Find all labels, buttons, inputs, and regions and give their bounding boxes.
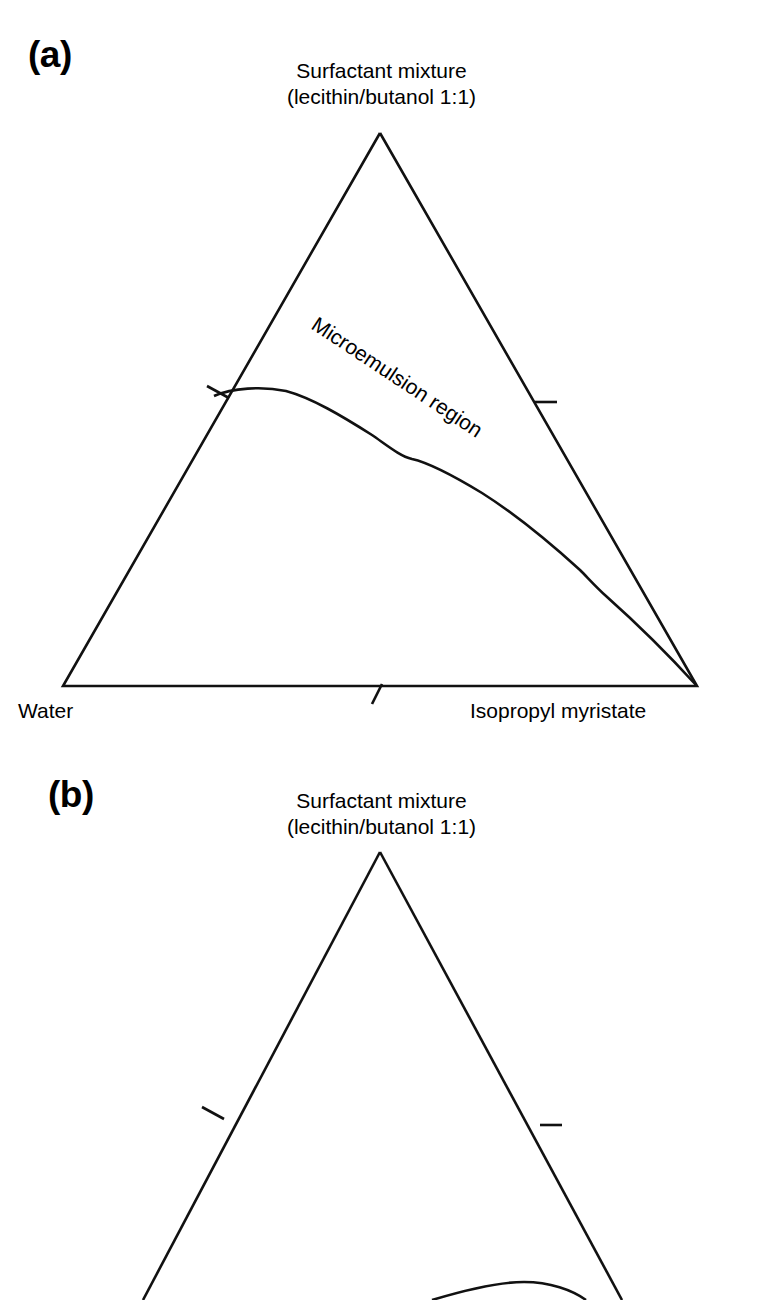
panel-a-triangle-outline <box>63 133 697 686</box>
panel-a-corner-label-isopropyl-myristate: Isopropyl myristate <box>470 700 646 721</box>
panel-b-tick-left-edge <box>202 1107 224 1119</box>
panel-b: (b) Surfactant mixture (lecithin/butanol… <box>0 760 763 1300</box>
panel-a-microemulsion-boundary-curve <box>214 388 696 685</box>
panel-b-triangle-left-edge <box>143 852 380 1300</box>
panel-b-ternary-diagram <box>0 760 763 1300</box>
panel-b-microemulsion-boundary-curve <box>432 1282 586 1300</box>
panel-a-corner-label-water: Water <box>18 700 73 721</box>
panel-a: (a) Surfactant mixture (lecithin/butanol… <box>0 0 763 760</box>
figure-root: (a) Surfactant mixture (lecithin/butanol… <box>0 0 763 1300</box>
panel-b-triangle-right-edge <box>380 852 622 1300</box>
